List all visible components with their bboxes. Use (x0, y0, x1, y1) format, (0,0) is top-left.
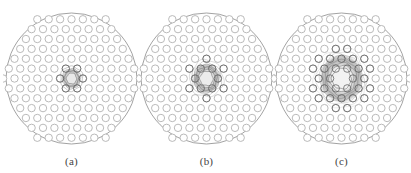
pcf-cross-section-c (273, 0, 410, 173)
panel-caption-a: (a) (3, 155, 140, 168)
panel-caption-b: (b) (138, 155, 275, 168)
pcf-panel-c: (c) (273, 0, 410, 173)
pcf-cross-section-a (3, 0, 140, 173)
pcf-panel-a: (a) (3, 0, 140, 173)
figure-container: (a) (b) (c) (0, 0, 411, 173)
pcf-cross-section-b (138, 0, 275, 173)
pcf-panel-b: (b) (138, 0, 275, 173)
panel-caption-c: (c) (273, 155, 410, 168)
